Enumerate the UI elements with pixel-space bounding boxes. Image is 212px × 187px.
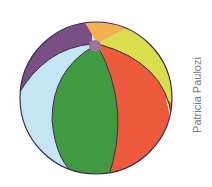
beach-ball-illustration [0,0,212,187]
photo-credit: Patricia Paulozi [191,57,203,133]
valve-cap [89,40,101,52]
